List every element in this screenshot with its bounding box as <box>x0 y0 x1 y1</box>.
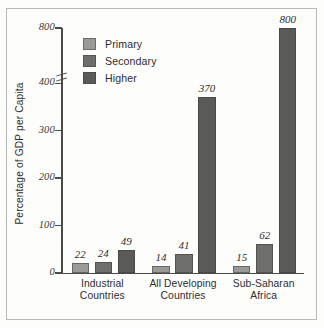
y-tick-200 <box>55 177 62 178</box>
y-tick-0 <box>55 272 62 273</box>
bar-value-label-secondary-group-2: 41 <box>167 240 201 251</box>
bar-value-label-higher-group-1: 49 <box>109 236 143 247</box>
y-tick-400 <box>55 83 62 84</box>
bar-value-label-primary-group-2: 14 <box>144 252 178 263</box>
y-tick-label-400: 400 <box>21 77 55 88</box>
legend-swatch-higher <box>83 72 96 84</box>
bar-value-label-primary-group-3: 15 <box>225 252 259 263</box>
legend-swatch-primary <box>83 38 96 50</box>
y-tick-label-100: 100 <box>21 220 55 231</box>
legend-item-secondary[interactable]: Secondary <box>83 53 157 69</box>
bar-higher-group-3[interactable] <box>279 28 297 273</box>
bar-secondary-group-2[interactable] <box>175 254 193 273</box>
category-label-3-line-2: Africa <box>216 290 312 302</box>
legend-item-primary[interactable]: Primary <box>83 36 157 52</box>
legend-label-higher: Higher <box>105 72 137 84</box>
bar-value-label-higher-group-3: 800 <box>271 14 305 25</box>
category-label-3: Sub-SaharanAfrica <box>216 278 312 303</box>
y-tick-label-200: 200 <box>21 172 55 183</box>
bar-higher-group-1[interactable] <box>118 250 136 273</box>
y-tick-label-300: 300 <box>21 125 55 136</box>
chart-figure: Percentage of GDP per Capita 01002003004… <box>0 0 324 328</box>
bar-value-label-secondary-group-3: 62 <box>248 230 282 241</box>
y-tick-100 <box>55 225 62 226</box>
legend-label-secondary: Secondary <box>105 55 157 67</box>
legend-label-primary: Primary <box>105 38 142 50</box>
y-tick-label-0: 0 <box>21 267 55 278</box>
bar-primary-group-2[interactable] <box>152 266 170 273</box>
category-label-3-line-1: Sub-Saharan <box>216 278 312 290</box>
y-axis-title: Percentage of GDP per Capita <box>14 39 25 269</box>
y-tick-label-800: 800 <box>21 22 55 33</box>
bar-secondary-group-1[interactable] <box>95 262 113 273</box>
bar-secondary-group-3[interactable] <box>256 244 274 273</box>
y-tick-300 <box>55 130 62 131</box>
bar-value-label-secondary-group-1: 24 <box>86 248 120 259</box>
bar-primary-group-3[interactable] <box>233 266 251 273</box>
bar-value-label-higher-group-2: 370 <box>190 83 224 94</box>
bar-higher-group-2[interactable] <box>198 97 216 273</box>
legend-swatch-secondary <box>83 55 96 67</box>
bar-primary-group-1[interactable] <box>72 263 90 273</box>
y-tick-800 <box>55 27 62 28</box>
legend-item-higher[interactable]: Higher <box>83 70 157 86</box>
chart-legend: PrimarySecondaryHigher <box>83 36 157 87</box>
